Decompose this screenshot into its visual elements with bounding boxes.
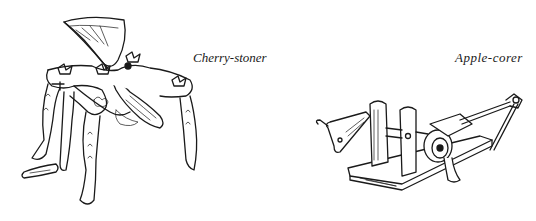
cherry-stoner-drawing — [0, 0, 200, 221]
apple-corer-illustration — [310, 80, 536, 200]
apple-corer-caption: Apple-corer — [455, 50, 523, 66]
cherry-stoner-caption: Cherry-stoner — [193, 50, 267, 66]
cherry-stoner-illustration — [0, 0, 200, 221]
apple-corer-drawing — [310, 80, 536, 200]
